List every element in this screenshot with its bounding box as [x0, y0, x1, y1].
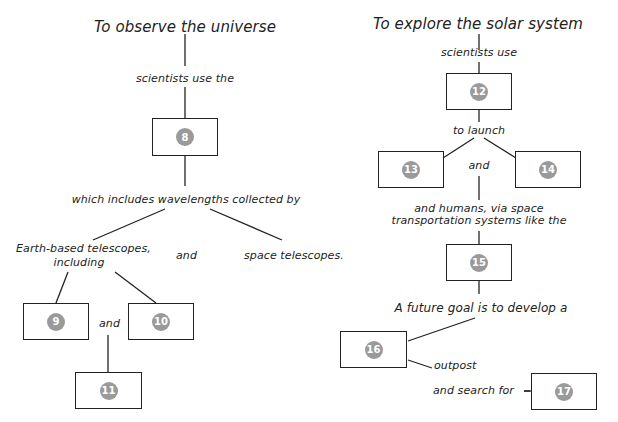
right-map-title: To explore the solar system: [373, 15, 583, 33]
number-badge-10: 10: [152, 313, 170, 331]
number-badge-11: 11: [100, 382, 118, 400]
left-step1-label: scientists use the: [136, 72, 234, 85]
search-for-label: and search for: [433, 384, 514, 397]
outpost-label: outpost: [434, 359, 476, 372]
answer-box-13[interactable]: 13: [378, 151, 444, 188]
number-badge-13: 13: [402, 161, 420, 179]
answer-box-17[interactable]: 17: [531, 373, 597, 410]
left-and-label: and: [176, 249, 197, 262]
answer-box-9[interactable]: 9: [23, 303, 89, 340]
answer-box-14[interactable]: 14: [515, 151, 581, 188]
number-badge-15: 15: [470, 254, 488, 272]
answer-box-11[interactable]: 11: [75, 372, 142, 409]
earth-based-label: Earth-based telescopes,: [16, 242, 151, 255]
left-step2-label: which includes wavelengths collected by: [72, 193, 301, 206]
left-map-title: To observe the universe: [94, 18, 276, 36]
number-badge-12: 12: [470, 83, 488, 101]
right-and-label: and: [469, 159, 490, 172]
answer-box-15[interactable]: 15: [446, 244, 512, 281]
future-goal-label: A future goal is to develop a: [395, 301, 568, 315]
including-label: including: [54, 256, 105, 269]
right-step1-label: scientists use: [441, 46, 517, 59]
transportation-label: transportation systems like the: [391, 214, 566, 227]
number-badge-16: 16: [365, 341, 383, 359]
left-and-small-label: and: [99, 317, 120, 330]
space-telescopes-label: space telescopes.: [244, 249, 344, 262]
number-badge-14: 14: [539, 161, 557, 179]
answer-box-10[interactable]: 10: [128, 303, 194, 340]
number-badge-9: 9: [47, 313, 65, 331]
number-badge-8: 8: [176, 128, 194, 146]
answer-box-8[interactable]: 8: [152, 118, 218, 156]
answer-box-12[interactable]: 12: [446, 73, 512, 110]
to-launch-label: to launch: [453, 124, 505, 137]
answer-box-16[interactable]: 16: [340, 331, 407, 368]
number-badge-17: 17: [555, 383, 573, 401]
